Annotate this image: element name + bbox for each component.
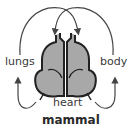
heart-to-lungs-arrow bbox=[18, 80, 36, 108]
heart-to-body-arrow bbox=[95, 80, 115, 108]
lungs-label: lungs bbox=[5, 56, 35, 67]
body-label: body bbox=[100, 56, 127, 67]
heart-label: heart bbox=[53, 97, 82, 108]
diagram-title: mammal bbox=[42, 114, 100, 126]
heart-shape bbox=[35, 33, 96, 100]
